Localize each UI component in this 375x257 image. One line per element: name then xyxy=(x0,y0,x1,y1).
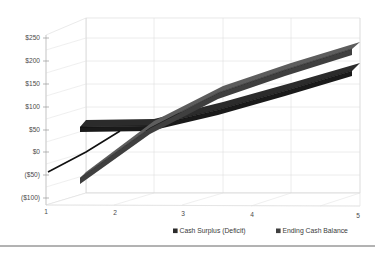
y-tick-label: $250 xyxy=(25,34,40,41)
legend-item-cash-surplus-deficit[interactable]: Cash Surplus (Deficit) xyxy=(173,227,246,235)
y-tick-label: ($50) xyxy=(25,171,40,179)
legend-item-label: Ending Cash Balance xyxy=(283,227,349,235)
chart-legend: Cash Surplus (Deficit) Ending Cash Balan… xyxy=(173,227,348,235)
y-tick-label: ($100) xyxy=(21,194,40,202)
floor-plane xyxy=(46,193,360,206)
x-tick-label: 5 xyxy=(356,212,360,219)
x-tick-label: 3 xyxy=(181,210,185,217)
legend-item-ending-cash-balance[interactable]: Ending Cash Balance xyxy=(276,227,348,235)
legend-item-label: Cash Surplus (Deficit) xyxy=(180,227,246,235)
x-axis-tick-labels: 1 2 3 4 5 xyxy=(44,208,360,219)
legend-swatch-icon xyxy=(276,229,281,234)
y-tick-label: $0 xyxy=(33,148,41,155)
y-axis-tick-labels: $250 $200 $150 $100 $50 $0 ($50) ($100) xyxy=(21,34,40,202)
y-tick-label: $200 xyxy=(25,57,40,64)
x-tick-label: 2 xyxy=(113,209,117,216)
x-tick-label: 4 xyxy=(250,211,254,218)
three-d-area-chart: $250 $200 $150 $100 $50 $0 ($50) ($100) … xyxy=(0,0,375,257)
chart-container: $250 $200 $150 $100 $50 $0 ($50) ($100) … xyxy=(0,0,375,257)
y-tick-label: $150 xyxy=(25,80,40,87)
y-tick-label: $50 xyxy=(29,126,40,133)
x-tick-label: 1 xyxy=(44,208,48,215)
y-tick-label: $100 xyxy=(25,103,40,110)
legend-swatch-icon xyxy=(173,229,178,234)
